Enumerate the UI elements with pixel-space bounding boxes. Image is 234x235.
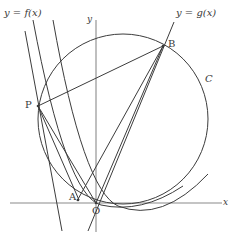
axes-group — [10, 20, 222, 232]
function-label-f: y = f(x) — [4, 8, 42, 18]
point-marker-p — [37, 105, 40, 108]
point-markers-group — [37, 45, 165, 205]
circle-label-c: C — [205, 74, 213, 84]
parabola-through-a — [33, 20, 183, 207]
geometry-figure: y = f(x) y = g(x) C P A B O x y — [0, 0, 234, 235]
curves-group — [33, 20, 208, 210]
point-label-a: A — [69, 192, 76, 202]
chord-p-a — [38, 106, 79, 200]
point-label-p: P — [25, 100, 32, 110]
point-label-b: B — [168, 39, 175, 49]
chord-p-b — [38, 46, 163, 106]
y-axis-label: y — [87, 15, 92, 24]
origin-label: O — [92, 206, 100, 216]
chord-o-b — [96, 46, 163, 203]
figure-canvas — [0, 0, 234, 235]
line-g-of-x — [88, 22, 174, 231]
function-label-g: y = g(x) — [176, 8, 216, 18]
x-axis-label: x — [223, 198, 228, 207]
chord-a-b — [77, 46, 163, 201]
point-marker-a — [77, 199, 80, 202]
line-f-of-x — [25, 31, 62, 231]
point-marker-o — [95, 202, 98, 205]
point-marker-b — [162, 45, 165, 48]
